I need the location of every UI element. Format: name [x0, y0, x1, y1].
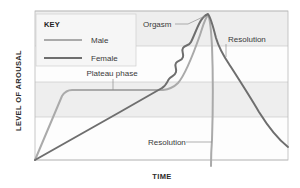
annotation-orgasm-label: Orgasm	[143, 20, 172, 29]
chart-canvas: Orgasm Plateau phase Resolution Resoluti…	[0, 0, 300, 188]
legend-label-male: Male	[91, 36, 109, 45]
annotation-plateau-phase-label: Plateau phase	[86, 69, 138, 78]
arousal-cycle-chart: LEVEL OF AROUSAL TIME Orgasm	[0, 0, 300, 188]
y-axis-label: LEVEL OF AROUSAL	[14, 21, 23, 161]
legend: KEY Male Female	[36, 14, 136, 66]
legend-label-female: Female	[91, 54, 118, 63]
legend-title: KEY	[44, 20, 60, 29]
annotation-resolution-female-label: Resolution	[228, 35, 266, 44]
annotation-resolution-male-label: Resolution	[148, 138, 186, 147]
x-axis-label: TIME	[35, 172, 289, 181]
